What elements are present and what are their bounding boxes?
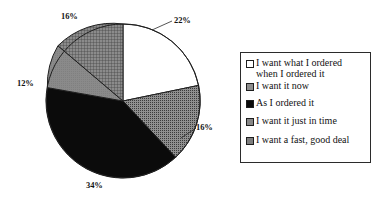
pie-label-12-percent: 12% — [17, 78, 34, 88]
pie-svg — [0, 0, 232, 209]
pie-label-34-percent: 34% — [86, 180, 103, 190]
legend-label: I want what I ordered when I ordered it — [256, 58, 342, 79]
legend-label: I want a fast, good deal — [256, 135, 349, 146]
pie-chart: 22% 16% 34% 12% 16% I want what I ordere… — [0, 0, 392, 209]
legend-item-i-want-it-now: I want it now — [246, 81, 367, 92]
pie-graphic-area: 22% 16% 34% 12% 16% — [0, 0, 232, 209]
legend-item-i-want-a-fast-good-deal: I want a fast, good deal — [246, 135, 367, 146]
legend-label: As I ordered it — [256, 98, 314, 109]
pie-label-16-percent-top: 16% — [61, 11, 78, 21]
legend-swatch-crosshatch-icon — [246, 137, 254, 145]
legend-swatch-gray-icon — [246, 118, 254, 126]
legend-label: I want it just in time — [256, 116, 337, 127]
legend-swatch-black-icon — [246, 100, 254, 108]
legend: I want what I ordered when I ordered it … — [240, 52, 371, 163]
pie-label-16-percent-right: 16% — [196, 122, 213, 132]
legend-items: I want what I ordered when I ordered it … — [246, 58, 367, 147]
legend-item-i-want-what-i-ordered: I want what I ordered when I ordered it — [246, 58, 367, 79]
legend-swatch-white-icon — [246, 60, 254, 68]
legend-item-as-i-ordered-it: As I ordered it — [246, 98, 367, 109]
legend-swatch-dotted-gray-icon — [246, 83, 254, 91]
legend-item-i-want-it-just-in-time: I want it just in time — [246, 116, 367, 127]
legend-label: I want it now — [256, 81, 309, 92]
pie-label-22-percent: 22% — [174, 15, 191, 25]
leader-line-22 — [152, 21, 172, 30]
